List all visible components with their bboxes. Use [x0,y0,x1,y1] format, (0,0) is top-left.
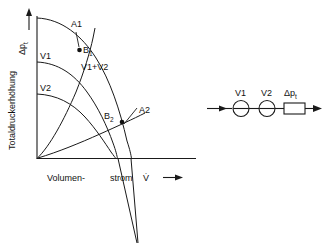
label-a2: A2 [139,105,150,115]
x-axis-label-part1: Volumen- [47,173,85,183]
label-curve-v1: V1 [40,51,51,61]
diagram-canvas: Δpt Totaldruckerhöhung Volumen- strom V̇ [0,0,327,248]
y-axis-label: Totaldruckerhöhung [7,71,17,150]
label-curve-v2: V2 [40,83,51,93]
svg-text:Δpt: Δpt [17,42,29,55]
schematic-label-fan1: V1 [235,88,246,98]
x-axis-symbol: V̇ [143,173,149,183]
schematic-group: V1 V2 Δpt [207,88,322,117]
y-axis-group [26,8,37,159]
schematic-label-fan2: V2 [261,88,272,98]
curve-v2 [37,94,116,159]
x-axis-arrow [163,175,183,181]
a1-pointer-line [76,32,79,47]
schematic-label-resistance: Δpt [284,88,297,100]
label-b2: B2 [104,111,114,123]
y-axis-symbol-delta-p: Δp [17,44,27,55]
schematic-resistance-symbol [284,103,305,114]
label-a1: A1 [71,19,82,29]
label-curve-v1-plus-v2: V1+V2 [81,62,108,72]
y-axis-symbol: Δpt [17,42,29,55]
schematic-outlet-arrow-head [313,105,322,112]
x-axis-arrow-head [175,175,183,181]
y-axis-arrow-head [26,8,32,16]
figure-root: Δpt Totaldruckerhöhung Volumen- strom V̇ [0,0,327,248]
operating-point-b2-dot [120,120,125,125]
y-axis-symbol-sub: t [22,42,29,44]
schematic-inlet-arrow-head [219,106,227,112]
y-axis-label-text: Totaldruckerhöhung [7,71,17,150]
a2-pointer-line [124,108,137,124]
operating-point-b1-dot [77,48,82,53]
label-b1: B1 [83,45,93,57]
